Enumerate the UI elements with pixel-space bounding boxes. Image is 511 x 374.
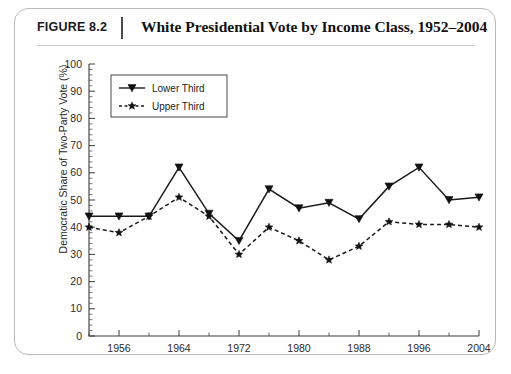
y-tick-label: 60 bbox=[70, 166, 82, 178]
data-point-marker bbox=[445, 220, 453, 227]
x-tick-label: 1996 bbox=[407, 342, 431, 353]
y-tick-label: 30 bbox=[70, 248, 82, 260]
y-tick-label: 100 bbox=[64, 58, 82, 70]
data-point-marker bbox=[175, 193, 183, 200]
line-chart: 0102030405060708090100195619641972198019… bbox=[15, 45, 497, 353]
legend-label-lower-third: Lower Third bbox=[152, 83, 205, 94]
legend-label-upper-third: Upper Third bbox=[152, 101, 205, 112]
y-tick-label: 20 bbox=[70, 275, 82, 287]
y-tick-label: 70 bbox=[70, 139, 82, 151]
x-tick-label: 1988 bbox=[347, 342, 371, 353]
series-line bbox=[89, 197, 479, 260]
series-line bbox=[89, 167, 479, 240]
x-tick-label: 1964 bbox=[167, 342, 191, 353]
page-edge-artifact bbox=[210, 362, 500, 372]
data-point-marker bbox=[205, 212, 213, 219]
x-tick-label: 1980 bbox=[287, 342, 311, 353]
data-point-marker bbox=[265, 223, 273, 230]
figure-title: White Presidential Vote by Income Class,… bbox=[141, 18, 487, 36]
data-point-marker bbox=[265, 186, 273, 193]
figure-label: FIGURE 8.2 bbox=[37, 20, 107, 34]
legend: Lower ThirdUpper Third bbox=[111, 75, 227, 117]
y-tick-label: 40 bbox=[70, 221, 82, 233]
data-point-marker bbox=[235, 250, 243, 257]
x-tick-label: 2004 bbox=[467, 342, 491, 353]
data-point-marker bbox=[475, 223, 483, 230]
y-tick-label: 0 bbox=[76, 330, 82, 342]
data-point-marker bbox=[325, 256, 333, 263]
series-upper-third bbox=[85, 193, 483, 263]
data-point-marker bbox=[175, 164, 183, 171]
data-point-marker bbox=[355, 216, 363, 223]
plot-area: Democratic Share of Two-Party Vote (%) 0… bbox=[15, 45, 495, 354]
data-point-marker bbox=[415, 220, 423, 227]
x-tick-label: 1956 bbox=[107, 342, 131, 353]
series-lower-third bbox=[85, 164, 483, 245]
y-tick-label: 90 bbox=[70, 85, 82, 97]
y-tick-label: 50 bbox=[70, 194, 82, 206]
data-point-marker bbox=[385, 218, 393, 225]
data-point-marker bbox=[235, 237, 243, 244]
x-tick-label: 1972 bbox=[227, 342, 251, 353]
y-tick-label: 80 bbox=[70, 112, 82, 124]
figure-card: FIGURE 8.2 White Presidential Vote by In… bbox=[14, 8, 496, 355]
data-point-marker bbox=[115, 229, 123, 236]
figure-header: FIGURE 8.2 White Presidential Vote by In… bbox=[15, 9, 495, 49]
figure-divider bbox=[121, 17, 123, 39]
y-tick-label: 10 bbox=[70, 302, 82, 314]
